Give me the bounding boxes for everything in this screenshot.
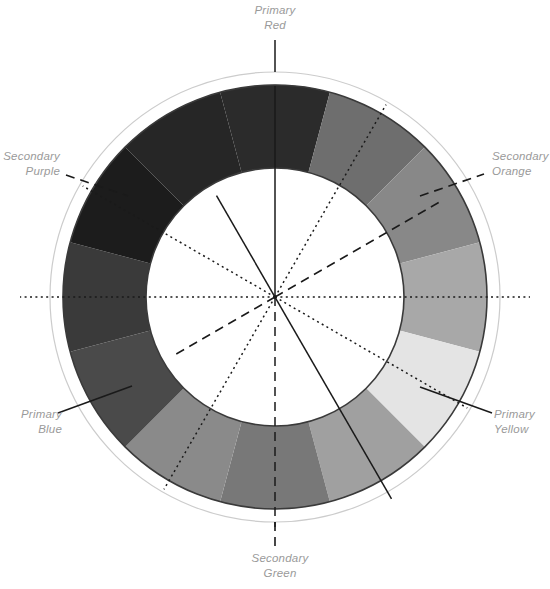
axis-line-axis-blue-yellow-b — [217, 196, 276, 297]
label-primary-red-line1: Primary — [254, 4, 296, 16]
label-primary-blue: PrimaryBlue — [21, 408, 63, 435]
label-primary-yellow-line1: Primary — [494, 408, 536, 420]
label-primary-blue-line2: Blue — [38, 423, 62, 435]
label-secondary-purple: SecondaryPurple — [3, 150, 61, 177]
label-primary-yellow: PrimaryYellow — [494, 408, 536, 435]
label-secondary-green-line1: Secondary — [252, 552, 310, 564]
label-secondary-purple-line1: Secondary — [3, 150, 61, 162]
color-wheel-diagram: PrimaryRedSecondaryOrangePrimaryYellowSe… — [0, 0, 550, 589]
color-wheel-svg: PrimaryRedSecondaryOrangePrimaryYellowSe… — [0, 0, 550, 589]
label-primary-blue-line1: Primary — [21, 408, 63, 420]
label-primary-red: PrimaryRed — [254, 4, 296, 31]
label-secondary-green-line2: Green — [264, 567, 297, 579]
label-primary-yellow-line2: Yellow — [494, 423, 529, 435]
label-secondary-purple-line2: Purple — [26, 165, 60, 177]
label-secondary-orange-line2: Orange — [492, 165, 532, 177]
label-secondary-green: SecondaryGreen — [252, 552, 310, 579]
axis-line-axis-purple-orange-b — [174, 297, 275, 356]
label-primary-red-line2: Red — [264, 19, 286, 31]
label-secondary-orange-line1: Secondary — [492, 150, 550, 162]
label-secondary-orange: SecondaryOrange — [492, 150, 550, 177]
